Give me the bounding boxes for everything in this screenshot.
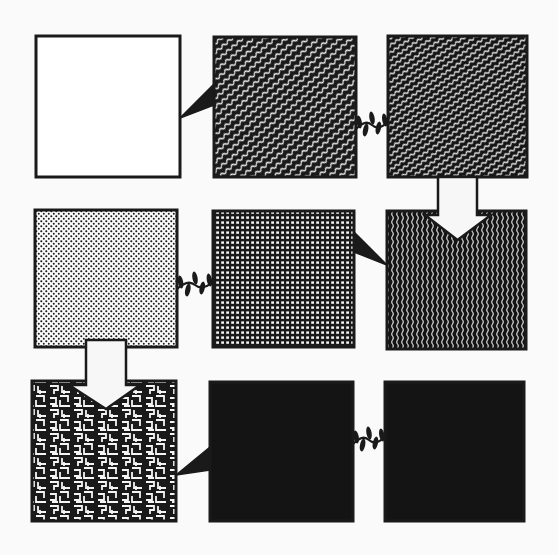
squiggle-4-5-squiggle-icon [177,271,213,297]
squiggle-8-9-squiggle-icon [353,426,386,452]
panel-2-diagonal-waves-texture [214,37,356,177]
panels-group [32,36,527,521]
panel-9-solid-texture [385,382,524,521]
panel-4-stipple-dots-texture [35,210,177,347]
squiggle-2-3-squiggle-icon [356,111,389,137]
wedge-7-8-speech-wedge-icon [176,447,210,475]
wedge-1-2-speech-wedge-icon [180,84,214,118]
panel-5-fine-grid-texture [213,211,354,347]
panel-3-diagonal-waves-dense-texture [388,36,527,177]
panel-8-solid-texture [210,382,353,521]
wedge-5-6-speech-wedge-icon [354,232,387,265]
panel-1-blank-texture [36,36,180,177]
texture-progression-diagram [0,0,558,555]
